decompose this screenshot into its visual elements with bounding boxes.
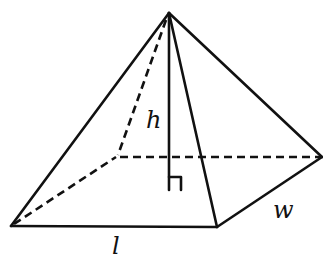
- pyramid-diagram: h w l: [0, 0, 323, 261]
- hidden-edge-front-left-to-back-left: [14, 157, 116, 224]
- edge-apex-to-front-right: [169, 13, 217, 227]
- label-width: w: [273, 196, 294, 224]
- edge-base-right: [217, 157, 322, 227]
- edge-base-front: [11, 226, 217, 227]
- edge-apex-to-back-right: [169, 13, 322, 157]
- right-angle-marker: [169, 177, 181, 190]
- label-height: h: [146, 106, 161, 134]
- pyramid-svg: h w l: [0, 0, 323, 261]
- label-length: l: [112, 232, 120, 260]
- hidden-edge-apex-to-back-left: [118, 20, 166, 155]
